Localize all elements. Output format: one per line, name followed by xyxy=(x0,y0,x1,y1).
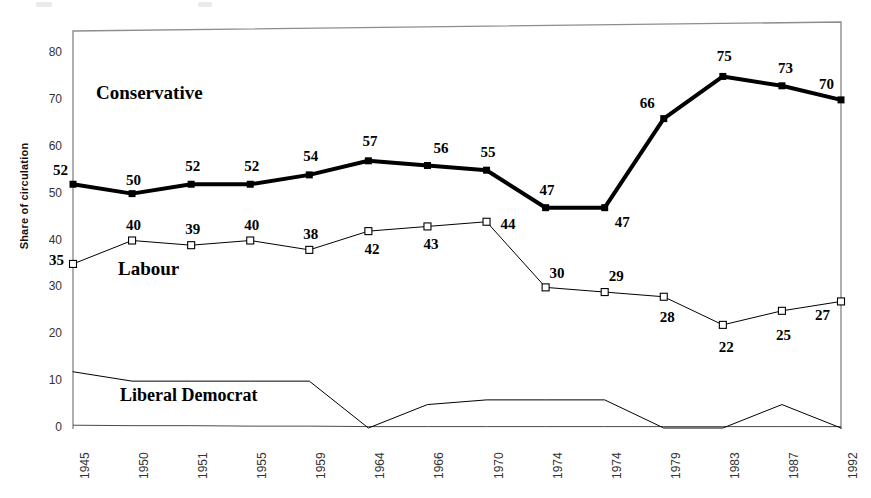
data-point-label: 40 xyxy=(126,217,141,234)
series-markers xyxy=(70,73,845,328)
series-paths xyxy=(73,76,841,428)
data-point-label: 42 xyxy=(364,241,379,258)
data-point-label: 52 xyxy=(244,158,259,175)
data-point-label: 70 xyxy=(819,76,834,93)
data-point-label: 66 xyxy=(640,95,655,112)
data-point-label: 30 xyxy=(550,265,565,282)
data-point-label: 47 xyxy=(540,182,555,199)
data-point-label: 43 xyxy=(423,236,438,253)
data-point-label: 25 xyxy=(776,327,791,344)
data-point-label: 52 xyxy=(53,162,68,179)
series-label-conservative: Conservative xyxy=(96,82,203,104)
data-point-label: 52 xyxy=(185,158,200,175)
data-point-label: 50 xyxy=(126,172,141,189)
data-point-label: 44 xyxy=(501,216,516,233)
data-point-label: 35 xyxy=(49,252,64,269)
data-point-label: 47 xyxy=(615,214,630,231)
chart-figure: Share of circulation 01020304050607080 1… xyxy=(0,0,871,498)
data-point-label: 27 xyxy=(815,307,830,324)
data-point-label: 55 xyxy=(481,144,496,161)
data-point-label: 54 xyxy=(303,148,318,165)
data-point-label: 22 xyxy=(719,339,734,356)
data-point-label: 40 xyxy=(244,217,259,234)
series-label-liberal-democrat: Liberal Democrat xyxy=(120,385,257,406)
data-point-label: 75 xyxy=(717,48,732,65)
data-point-label: 57 xyxy=(362,133,377,150)
data-point-label: 56 xyxy=(433,140,448,157)
data-point-label: 73 xyxy=(778,60,793,77)
data-point-label: 39 xyxy=(185,221,200,238)
data-point-label: 28 xyxy=(660,309,675,326)
series-label-labour: Labour xyxy=(118,258,179,280)
data-point-label: 29 xyxy=(609,268,624,285)
data-point-label: 38 xyxy=(303,226,318,243)
